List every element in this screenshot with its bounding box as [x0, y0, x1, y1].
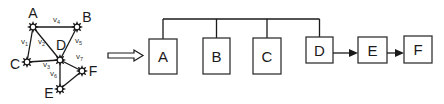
flow-box-b: B — [203, 38, 230, 74]
transform-arrow-icon — [108, 50, 143, 61]
flow-box-label: F — [413, 41, 422, 58]
arrowhead-icon — [349, 49, 358, 57]
edge-label-subscript: 7 — [80, 56, 83, 62]
flow-box-label: D — [314, 42, 325, 59]
flow-bus — [163, 19, 320, 39]
flow-arrow-e-f — [387, 49, 404, 57]
graph-node-c-icon — [21, 56, 33, 68]
graph-node-label-b: B — [82, 9, 91, 25]
edge-label: v2 — [38, 37, 45, 47]
edge-label: v5 — [75, 36, 82, 46]
graph-node-label-a: A — [28, 5, 38, 21]
graph-node-d-icon — [54, 54, 66, 66]
flow-box-d: D — [306, 37, 333, 63]
graph-edges — [27, 27, 82, 89]
graph-node-e-icon — [54, 83, 66, 95]
edge-label-subscript: 4 — [57, 19, 60, 25]
flow-boxes: ABCDEF — [149, 36, 432, 74]
edge-label: v6 — [50, 69, 57, 79]
diagram-canvas: v4v1v2v5v3v7v6 ABCDEF ABCDEF — [0, 0, 444, 104]
edge-label-subscript: 1 — [25, 41, 28, 47]
edge-label: v7 — [76, 52, 83, 62]
graph-node-label-f: F — [89, 63, 98, 79]
graph-node-label-c: C — [10, 56, 20, 72]
flow-box-label: A — [158, 48, 168, 65]
edge-label: v4 — [53, 15, 60, 25]
graph-node-label-d: D — [56, 37, 66, 53]
flow-box-label: C — [262, 48, 273, 65]
edge-label-subscript: 5 — [79, 40, 82, 46]
flow-box-label: B — [211, 48, 221, 65]
graph-edge-d-f — [60, 60, 82, 71]
arrowhead-icon — [395, 49, 404, 57]
edge-label-subscript: 2 — [42, 41, 45, 47]
flow-box-f: F — [404, 36, 432, 63]
edge-label: v3 — [43, 60, 50, 70]
graph-node-a-icon — [27, 21, 39, 33]
flow-arrow-d-e — [333, 49, 358, 57]
graph-node-label-e: E — [44, 85, 53, 101]
flow-box-c: C — [253, 38, 281, 74]
flow-box-a: A — [149, 39, 177, 74]
flow-box-label: E — [367, 42, 377, 59]
edge-label-subscript: 6 — [54, 73, 57, 79]
graph-node-b-icon — [71, 21, 83, 33]
graph-node-f-icon — [76, 65, 88, 77]
flow-box-e: E — [358, 37, 387, 63]
edge-label: v1 — [21, 37, 28, 47]
